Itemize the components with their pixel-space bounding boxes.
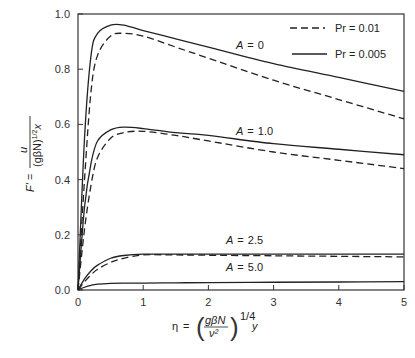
x-axis-ticks: 012345: [75, 285, 407, 308]
svg-text:ν²: ν²: [209, 327, 219, 339]
y-tick-label: 0.2: [55, 229, 70, 241]
x-tick-label: 2: [205, 296, 211, 308]
y-tick-label: 0.0: [55, 284, 70, 296]
svg-text:y: y: [251, 320, 259, 332]
svg-text:gβN: gβN: [205, 314, 225, 326]
label-a25: A=2.5: [225, 234, 263, 246]
curve-a-5-0: [78, 282, 404, 290]
x-axis-label: η = ( gβN ν² ) 1/4 y: [172, 310, 259, 342]
y-tick-label: 0.6: [55, 118, 70, 130]
svg-text:u: u: [17, 147, 29, 153]
label-a1: A=1.0: [235, 125, 273, 137]
svg-text:η: η: [172, 320, 178, 332]
svg-text:F': F': [24, 182, 36, 192]
legend-solid-label: Pr = 0.005: [335, 48, 386, 60]
y-axis-label: F' = u (gβN)1/2x: [17, 116, 43, 192]
legend-dashed-label: Pr = 0.01: [335, 22, 380, 34]
x-tick-label: 5: [401, 296, 407, 308]
data-curves: [78, 24, 404, 290]
svg-text:(gβN)1/2x: (gβN)1/2x: [31, 124, 43, 167]
svg-text:): ): [230, 312, 239, 342]
chart-figure: 0.00.20.40.60.81.0 012345 A=0 A=1.0 A=2.…: [0, 0, 415, 358]
x-tick-label: 3: [271, 296, 277, 308]
x-tick-label: 0: [75, 296, 81, 308]
x-tick-label: 4: [336, 296, 342, 308]
legend: Pr = 0.01 Pr = 0.005: [290, 22, 386, 60]
curve-a-0-pr-0-005: [78, 24, 404, 290]
y-tick-label: 0.4: [55, 174, 70, 186]
svg-text:(: (: [196, 312, 205, 342]
y-tick-label: 1.0: [55, 8, 70, 20]
label-a0: A=0: [235, 39, 264, 51]
y-tick-label: 0.8: [55, 63, 70, 75]
svg-text:=: =: [183, 320, 189, 332]
curve-a-0-pr-0-01: [78, 33, 404, 290]
svg-text:=: =: [24, 174, 36, 180]
label-a5: A=5.0: [225, 261, 263, 273]
y-axis-ticks: 0.00.20.40.60.81.0: [55, 8, 83, 296]
x-tick-label: 1: [140, 296, 146, 308]
